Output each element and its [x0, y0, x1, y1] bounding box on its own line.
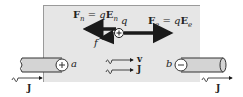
terminal-b-label: b [166, 59, 172, 69]
terminal-a-label: a [71, 59, 77, 69]
friction-label: f [94, 38, 98, 48]
right-current-label: J [216, 84, 220, 93]
friction-arrow [102, 37, 114, 38]
force-e-label: Fe = qEe [148, 16, 192, 29]
left-current-arrow [12, 78, 42, 82]
velocity-arrow [106, 60, 133, 64]
right-current-arrow [202, 78, 232, 82]
right-wire [175, 58, 226, 72]
current-density-arrow [106, 70, 133, 74]
left-current-label: J [27, 84, 31, 93]
left-wire [21, 58, 69, 72]
charge-circle [115, 29, 124, 38]
current-density-label: J [137, 65, 141, 74]
velocity-label: v [137, 55, 142, 64]
force-n-label: Fn = qEn [73, 10, 118, 23]
charge-label: q [121, 16, 127, 26]
